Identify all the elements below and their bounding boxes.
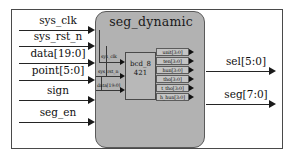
input-wire-point (19, 80, 89, 81)
internal-wire-sys-rst-n-horizontal (96, 76, 121, 77)
output-label-sel: sel[5:0] (212, 55, 280, 67)
internal-wire-data-horizontal (96, 90, 121, 91)
inner-output-arrow-ten (189, 58, 194, 64)
inner-block-label-line1: bcd_8 (125, 60, 156, 69)
input-label-sign: sign (22, 84, 94, 96)
inner-block-label-line2: 421 (125, 69, 156, 78)
output-wire-seg (206, 104, 270, 105)
inner-output-arrow-tho (189, 76, 194, 82)
module-title: seg_dynamic (98, 14, 204, 29)
inner-output-port-tho: tho[3:0] (156, 75, 189, 83)
inner-output-port-ten: ten[3:0] (156, 57, 189, 65)
input-label-data: data[19:0] (20, 47, 96, 59)
diagram-canvas: seg_dynamic sys_clk sys_rst_n data[19:0]… (0, 0, 295, 160)
input-arrow-point (88, 76, 95, 84)
input-arrow-seg-en (88, 118, 95, 126)
output-arrow-sel (269, 67, 276, 75)
inner-output-port-unit: unit[3:0] (156, 48, 189, 56)
inner-output-port-h-hun: h_hun[3:0] (156, 93, 189, 101)
output-label-seg: seg[7:0] (212, 88, 280, 100)
input-label-point: point[5:0] (20, 64, 96, 76)
inner-output-arrow-unit (189, 49, 194, 55)
inner-output-arrow-hun (189, 67, 194, 73)
inner-output-port-t-tho: t_tho[3:0] (156, 84, 189, 92)
input-label-seg-en: seg_en (22, 106, 94, 118)
input-arrow-sign (88, 96, 95, 104)
output-wire-sel (206, 71, 270, 72)
inner-output-arrow-t-tho (189, 85, 194, 91)
inner-block-label: bcd_8 421 (125, 60, 156, 78)
input-wire-seg-en (19, 122, 89, 123)
internal-wire-sys-clk-horizontal (99, 62, 121, 63)
inner-port-label-data: data[19:0] (97, 83, 120, 88)
input-wire-sign (19, 100, 89, 101)
inner-output-arrow-h-hun (189, 94, 194, 100)
internal-wire-sys-clk-vertical (99, 30, 100, 62)
inner-port-label-sys-rst-n: sys_rst_n (98, 69, 118, 74)
output-arrow-seg (269, 100, 276, 108)
input-label-sys-clk: sys_clk (22, 14, 94, 26)
inner-output-port-hun: hun[3:0] (156, 66, 189, 74)
input-label-sys-rst-n: sys_rst_n (20, 30, 96, 42)
inner-port-label-sys-clk: sys_clk (101, 54, 117, 59)
